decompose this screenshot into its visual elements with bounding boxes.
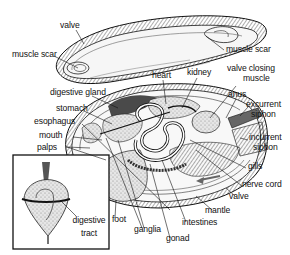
label-esophagus: esophagus xyxy=(34,117,75,126)
label-heart: heart xyxy=(152,71,171,80)
label-valve-top: valve xyxy=(60,21,80,30)
label-ganglia: ganglia xyxy=(134,225,161,234)
label-digestive-gland: digestive gland xyxy=(50,88,106,97)
label-stomach: stomach xyxy=(56,104,88,113)
label-nerve-cord: nerve cord xyxy=(242,180,282,189)
label-incurrent-siphon-line1: incurrent xyxy=(249,133,282,142)
label-valve-bottom: valve xyxy=(229,192,249,201)
label-muscle-scar-left: muscle scar xyxy=(12,50,57,59)
label-kidney: kidney xyxy=(187,68,211,77)
label-foot: foot xyxy=(112,215,126,224)
label-anus: anus xyxy=(228,90,246,99)
label-mantle: mantle xyxy=(205,206,230,215)
label-excurrent-siphon-line1: excurrent xyxy=(246,100,281,109)
label-valve-closing-muscle-line1: valve closing xyxy=(227,64,275,73)
label-digestive-tract-line1: digestive xyxy=(69,216,109,225)
label-excurrent-siphon-line2: siphon xyxy=(251,110,276,119)
label-palps: palps xyxy=(37,143,57,152)
label-muscle-scar-right: muscle scar xyxy=(226,45,271,54)
label-gonad: gonad xyxy=(166,234,189,243)
label-intestines: intestines xyxy=(182,218,217,227)
label-incurrent-siphon-line2: siphon xyxy=(253,143,278,152)
label-gills: gills xyxy=(248,162,262,171)
clam-anatomy-diagram: valve muscle scar muscle scar heart kidn… xyxy=(0,0,290,255)
label-mouth: mouth xyxy=(39,131,62,140)
label-valve-closing-muscle-line2: muscle xyxy=(243,74,270,83)
label-digestive-tract-line2: tract xyxy=(69,229,109,238)
diagram-illustration xyxy=(0,0,290,255)
